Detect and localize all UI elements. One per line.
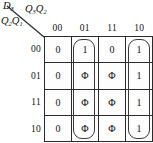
kmap-cell-r3c3: 1 [126,116,152,141]
row-var-1-letter: Q [1,15,9,26]
kmap-column-variable-label: Q3Q2 [25,4,47,15]
column-header-0: 00 [44,21,71,36]
kmap-cell-r1c2: Φ [99,63,126,88]
kmap-grid: 0 1 0 1 0 Φ Φ 1 0 Φ Φ 1 0 Φ Φ 1 [44,36,153,142]
kmap-cell-r3c1: Φ [72,116,99,141]
kmap-output-label: D3 [3,1,14,12]
table-row: 0 Φ Φ 1 [45,116,152,141]
kmap-cell-r0c1: 1 [72,37,99,62]
output-letter: D [3,0,11,11]
column-header-3: 10 [126,21,153,36]
row-header-0: 00 [20,36,43,63]
table-row: 0 Φ Φ 1 [45,90,152,116]
table-row: 0 Φ Φ 1 [45,63,152,89]
row-header-1: 01 [20,63,43,90]
col-var-1-letter: Q [25,3,33,14]
row-var-1-subscript: 2 [9,20,12,27]
kmap-corner-header: D3 Q3Q2 Q2Q1 [0,0,46,38]
kmap-cell-r2c0: 0 [45,90,72,115]
karnaugh-map-figure: D3 Q3Q2 Q2Q1 00 01 11 10 00 01 11 10 0 1… [0,0,153,143]
kmap-row-headers: 00 01 11 10 [20,36,43,142]
output-subscript: 3 [11,5,14,12]
kmap-row-variable-label: Q2Q1 [1,16,23,27]
kmap-column-headers: 00 01 11 10 [44,21,153,36]
table-row: 0 1 0 1 [45,37,152,63]
kmap-cell-r0c2: 0 [99,37,126,62]
col-var-2-subscript: 2 [43,8,46,15]
kmap-cell-r2c1: Φ [72,90,99,115]
kmap-cell-r0c0: 0 [45,37,72,62]
row-var-2-subscript: 1 [19,20,22,27]
kmap-cell-r1c1: Φ [72,63,99,88]
kmap-cell-r3c0: 0 [45,116,72,141]
kmap-cell-r2c2: Φ [99,90,126,115]
kmap-cell-r3c2: Φ [99,116,126,141]
column-header-1: 01 [71,21,98,36]
kmap-cell-r1c0: 0 [45,63,72,88]
row-header-2: 11 [20,89,43,116]
col-var-1-subscript: 3 [33,8,36,15]
kmap-cell-r0c3: 1 [126,37,152,62]
kmap-cell-r2c3: 1 [126,90,152,115]
row-header-3: 10 [20,116,43,143]
column-header-2: 11 [99,21,126,36]
kmap-cell-r1c3: 1 [126,63,152,88]
